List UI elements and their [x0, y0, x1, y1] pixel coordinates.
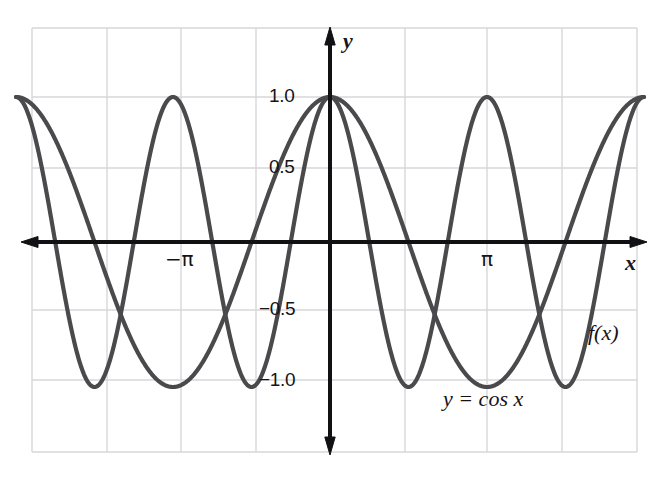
x-tick-label-neg-pi: −π — [165, 249, 193, 269]
y-tick-label-neg-1-0: −1.0 — [259, 370, 295, 389]
plot-area — [0, 0, 663, 480]
x-tick-label-pi: π — [481, 249, 493, 269]
x-axis-arrow-right — [630, 237, 647, 248]
x-axis-arrow-left — [21, 237, 38, 248]
y-tick-label-1-0: 1.0 — [269, 86, 295, 105]
axes — [21, 27, 647, 455]
curve-label-y-equals-cos-x: y = cos x — [443, 388, 523, 410]
x-axis-label: x — [625, 252, 636, 274]
curve-label-f-of-x: f(x) — [588, 322, 619, 344]
chart-figure: y x 1.0 0.5 −0.5 −1.0 −π π f(x) y = cos … — [0, 0, 663, 480]
y-tick-label-0-5: 0.5 — [269, 157, 295, 176]
y-axis-arrow-up — [325, 27, 335, 45]
y-tick-label-neg-0-5: −0.5 — [259, 299, 295, 318]
y-axis-label: y — [343, 30, 353, 52]
